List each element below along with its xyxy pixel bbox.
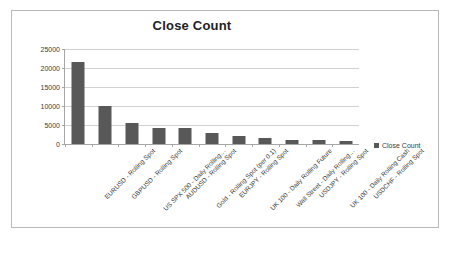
y-axis-tick-label: 0 xyxy=(56,141,60,148)
bar[interactable] xyxy=(259,138,272,144)
chart-title: Close Count xyxy=(12,18,372,33)
y-axis-tick-label: 20000 xyxy=(41,65,60,72)
bar[interactable] xyxy=(339,141,352,144)
y-axis-tick-label: 25000 xyxy=(41,46,60,53)
bar-slot xyxy=(172,49,199,144)
bar[interactable] xyxy=(72,62,85,144)
bar[interactable] xyxy=(152,128,165,144)
y-axis-tick-label: 10000 xyxy=(41,103,60,110)
bar-slot xyxy=(65,49,92,144)
chart-legend: Close Count xyxy=(374,142,421,149)
legend-label-close-count: Close Count xyxy=(382,142,421,149)
bar-slot xyxy=(306,49,333,144)
chart-frame: Close Count 0500010000150002000025000 EU… xyxy=(11,10,439,228)
bar-slot xyxy=(199,49,226,144)
legend-swatch-close-count xyxy=(374,143,379,148)
bar[interactable] xyxy=(99,106,112,144)
bar-slot xyxy=(118,49,145,144)
bar[interactable] xyxy=(125,123,138,144)
bar[interactable] xyxy=(286,140,299,144)
bar-slot xyxy=(225,49,252,144)
y-axis-tick-label: 5000 xyxy=(44,122,60,129)
bar-slot xyxy=(252,49,279,144)
bar[interactable] xyxy=(312,140,325,144)
bar-series xyxy=(65,49,359,144)
y-axis-tick-label: 15000 xyxy=(41,84,60,91)
bar[interactable] xyxy=(205,133,218,144)
bar-slot xyxy=(92,49,119,144)
bar[interactable] xyxy=(179,128,192,144)
bar-slot xyxy=(332,49,359,144)
x-axis-category-label: EURUSD - Rolling Spot xyxy=(103,147,156,200)
x-axis-category-labels: EURUSD - Rolling SpotGBPUSD - Rolling Sp… xyxy=(64,145,359,225)
plot-area: 0500010000150002000025000 xyxy=(64,49,359,144)
bar[interactable] xyxy=(232,136,245,144)
bar-slot xyxy=(145,49,172,144)
bar-slot xyxy=(279,49,306,144)
